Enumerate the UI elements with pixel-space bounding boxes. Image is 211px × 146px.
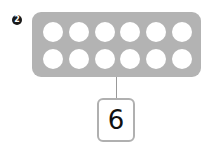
empty-circle — [120, 22, 140, 42]
circle-frame-panel — [32, 12, 201, 77]
answer-box[interactable]: 6 — [97, 98, 135, 142]
empty-circle — [95, 22, 115, 42]
answer-value: 6 — [99, 100, 133, 140]
empty-circle — [146, 49, 166, 69]
empty-circle — [172, 49, 192, 69]
empty-circle — [95, 49, 115, 69]
empty-circle — [69, 22, 89, 42]
empty-circle — [43, 49, 63, 69]
empty-circle — [69, 49, 89, 69]
problem-number-badge: 2 — [12, 15, 22, 25]
connector-line — [116, 77, 117, 98]
empty-circle — [120, 49, 140, 69]
empty-circle — [146, 22, 166, 42]
empty-circle — [43, 22, 63, 42]
empty-circle — [172, 22, 192, 42]
